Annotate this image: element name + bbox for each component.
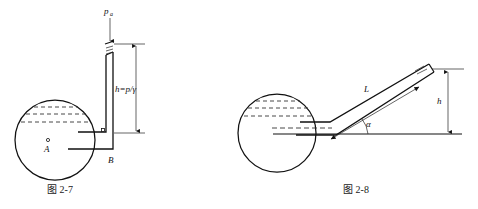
vessel-sphere-a: [15, 100, 95, 180]
figure-2-7-caption: 图 2-7: [47, 184, 73, 195]
pressure-subscript-label: a: [110, 11, 113, 17]
pressure-symbol-label: p: [103, 6, 109, 16]
figure-sheet: p a h=p/γ A B 图 2-7: [0, 0, 478, 209]
point-a-label: A: [43, 144, 50, 154]
point-b-marker-icon: [102, 129, 105, 132]
riser-rim-a: [105, 41, 114, 44]
height-expression-label: h=p/γ: [115, 84, 137, 94]
point-b-label: B: [108, 155, 114, 165]
angle-label: α: [366, 119, 371, 129]
fluid-level-inclined-b: [415, 66, 427, 74]
height-label-b: h: [437, 96, 442, 106]
point-a-marker-icon: [46, 138, 49, 141]
length-label: L: [363, 84, 369, 94]
pipe-open-end-rim-b: [429, 64, 434, 72]
figure-2-7: p a h=p/γ A B 图 2-7: [15, 6, 145, 195]
pipe-lower-wall-b: [296, 72, 434, 135]
figure-2-8-caption: 图 2-8: [343, 184, 369, 195]
figure-2-8: α L h 图 2-8: [238, 64, 464, 195]
vessel-sphere-b: [238, 94, 316, 172]
